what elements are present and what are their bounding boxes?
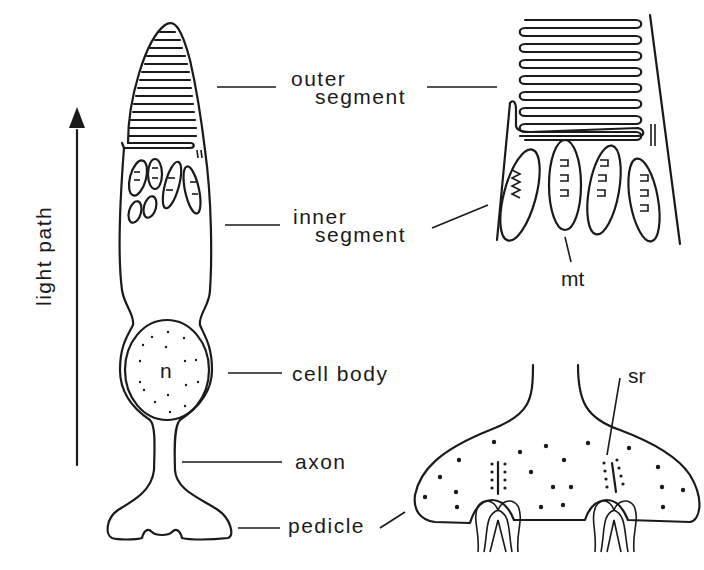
axon-label: axon bbox=[295, 451, 347, 473]
mitochondria-label: mt bbox=[561, 268, 584, 290]
nucleus-label: n bbox=[160, 360, 173, 382]
pedicle-label: pedicle bbox=[288, 515, 365, 537]
postsynaptic-processes bbox=[476, 501, 637, 552]
outer-inner-segment-detail bbox=[492, 15, 680, 245]
pedicle-detail bbox=[415, 365, 700, 552]
mitochondria-detail bbox=[492, 140, 665, 245]
cone-photoreceptor-diagram: light path outer segment inner segment c… bbox=[0, 0, 704, 570]
synaptic-vesicles bbox=[423, 440, 685, 509]
mitochondria-left bbox=[126, 159, 204, 225]
cell-body-label: cell body bbox=[292, 363, 388, 385]
inner-segment-label-line2: segment bbox=[315, 224, 406, 246]
outer-segment-label-line2: segment bbox=[315, 86, 406, 108]
light-path-arrow bbox=[69, 107, 85, 465]
folded-membrane-discs bbox=[520, 20, 642, 140]
synaptic-ribbon-label: sr bbox=[628, 365, 646, 387]
synaptic-ribbons bbox=[490, 458, 624, 494]
light-path-label: light path bbox=[32, 206, 56, 306]
